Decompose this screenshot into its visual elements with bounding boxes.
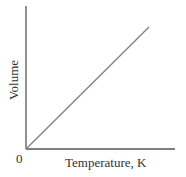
chart-plot-area: [0, 0, 186, 177]
y-axis-label: Volume: [6, 60, 22, 100]
x-axis-label: Temperature, K: [65, 155, 146, 171]
origin-label: 0: [16, 151, 23, 167]
data-line: [26, 27, 149, 149]
